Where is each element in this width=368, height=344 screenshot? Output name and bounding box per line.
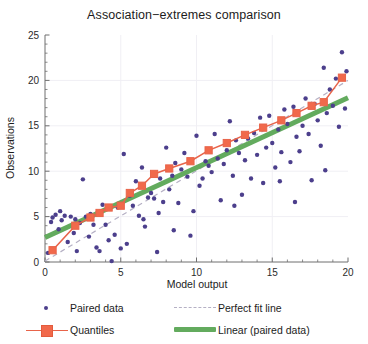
chart-legend: Paired data Perfect fit line Quantiles L… — [24, 297, 346, 341]
dashed-line-icon — [172, 300, 218, 316]
dot-marker-icon — [24, 300, 70, 316]
legend-label-quantiles: Quantiles — [70, 322, 114, 338]
svg-text:0: 0 — [42, 267, 48, 278]
x-axis-title: Model output — [167, 278, 228, 290]
svg-text:0: 0 — [33, 257, 39, 268]
plot-area: 051015200510152025 Model output Observat… — [0, 0, 368, 344]
chart-figure: Association−extremes comparison 05101520… — [0, 0, 368, 344]
svg-text:10: 10 — [191, 267, 203, 278]
grid-lines — [45, 35, 348, 262]
svg-text:20: 20 — [342, 267, 354, 278]
legend-item-linear-paired-data: Linear (paired data) — [172, 319, 346, 341]
axis-tick-labels: 051015200510152025 — [28, 30, 354, 279]
svg-text:20: 20 — [28, 75, 40, 86]
svg-text:5: 5 — [118, 267, 124, 278]
legend-label-perfect-fit-line: Perfect fit line — [218, 300, 282, 316]
y-axis-title: Observations — [4, 117, 16, 179]
legend-item-paired-data: Paired data — [24, 297, 172, 319]
legend-label-paired-data: Paired data — [70, 300, 124, 316]
svg-text:5: 5 — [33, 211, 39, 222]
svg-text:25: 25 — [28, 30, 40, 41]
square-marker-line-icon — [24, 322, 70, 338]
legend-item-quantiles: Quantiles — [24, 319, 172, 341]
svg-text:15: 15 — [28, 120, 40, 131]
legend-label-linear-paired-data: Linear (paired data) — [218, 322, 310, 338]
svg-text:15: 15 — [267, 267, 279, 278]
legend-item-perfect-fit-line: Perfect fit line — [172, 297, 346, 319]
svg-text:10: 10 — [28, 166, 40, 177]
thick-line-icon — [172, 322, 218, 338]
